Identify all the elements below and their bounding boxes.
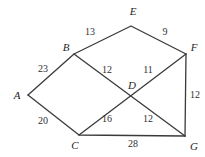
edge-path-c-d-f: [79, 54, 186, 135]
edge-weight-d-g: 12: [143, 114, 153, 124]
edge-weight-d-f: 11: [143, 65, 153, 75]
graph-edges-svg: [0, 0, 205, 157]
edge-weight-b-d: 12: [102, 65, 112, 75]
vertex-label-f: F: [191, 42, 198, 53]
weighted-graph-diagram: A B C D E F G 23 20 13 9 12 11 16 12 12 …: [0, 0, 205, 157]
edge-path-f-g: [185, 54, 186, 136]
edge-weight-e-f: 9: [163, 27, 168, 37]
vertex-label-d: D: [128, 80, 136, 91]
edge-weight-a-c: 20: [38, 116, 48, 126]
edge-weight-c-d: 16: [102, 114, 112, 124]
vertex-label-b: B: [63, 42, 70, 53]
vertex-label-e: E: [130, 6, 137, 17]
vertex-label-g: G: [190, 141, 198, 152]
edge-weight-f-g: 12: [190, 90, 200, 100]
edge-path-b-d-g: [74, 54, 185, 136]
vertex-label-c: C: [71, 140, 78, 151]
edge-weight-b-e: 13: [85, 27, 95, 37]
vertex-label-a: A: [14, 90, 21, 101]
edge-weight-c-g: 28: [128, 139, 138, 149]
edge-weight-a-b: 23: [38, 64, 48, 74]
